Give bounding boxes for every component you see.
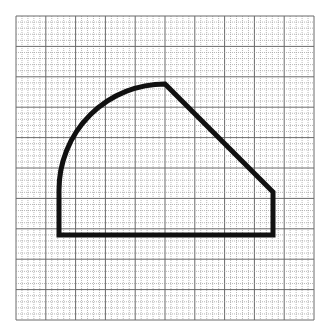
- composite-shape-outline: [59, 84, 273, 235]
- graph-paper-figure: [0, 0, 328, 334]
